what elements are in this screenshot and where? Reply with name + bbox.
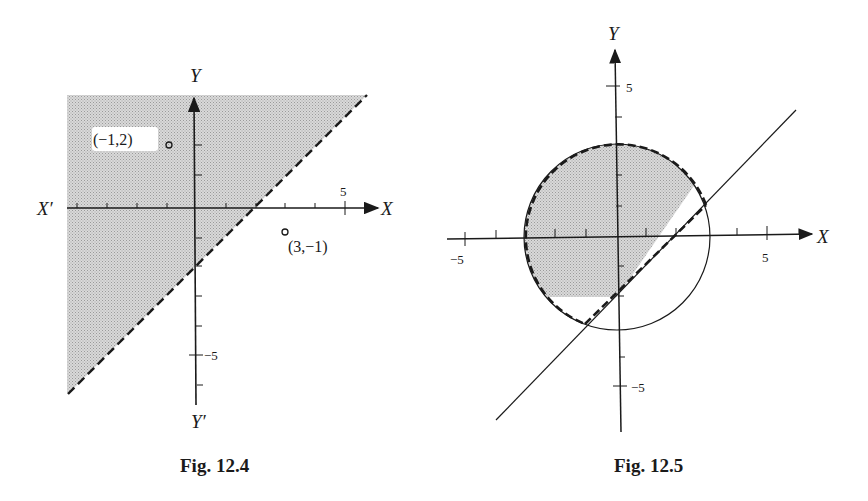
x-axis-label: X bbox=[380, 198, 394, 219]
y-axis-label: Y bbox=[608, 23, 621, 44]
x-tick-label-5: 5 bbox=[762, 250, 769, 265]
point-label-neg1-2: (−1,2) bbox=[93, 131, 133, 149]
figure-12-5: Y X −5 5 5 −5 Fig. 12.5 bbox=[420, 23, 830, 476]
y-tick-label-5: 5 bbox=[626, 80, 633, 95]
figures-canvas: (−1,2) (3,−1) Y X X′ Y′ 5 −5 Fig. 12.4 bbox=[0, 0, 868, 501]
point-label-3-neg1: (3,−1) bbox=[288, 238, 328, 256]
x-axis-label: X bbox=[816, 226, 830, 247]
figure-caption: Fig. 12.5 bbox=[614, 455, 683, 476]
x-neg-axis-label: X′ bbox=[36, 198, 54, 219]
y-tick-label-neg5: −5 bbox=[631, 380, 645, 395]
shaded-region bbox=[420, 120, 700, 297]
figure-12-4: (−1,2) (3,−1) Y X X′ Y′ 5 −5 Fig. 12.4 bbox=[36, 65, 394, 476]
x-tick-label-neg5: −5 bbox=[450, 252, 464, 267]
x-tick-label-5: 5 bbox=[340, 184, 347, 199]
point-3-neg1 bbox=[282, 229, 288, 235]
y-neg-axis-label: Y′ bbox=[191, 411, 207, 432]
y-tick-label-neg5: −5 bbox=[204, 348, 218, 363]
y-axis-label: Y bbox=[190, 65, 203, 86]
figure-caption: Fig. 12.4 bbox=[180, 455, 250, 476]
